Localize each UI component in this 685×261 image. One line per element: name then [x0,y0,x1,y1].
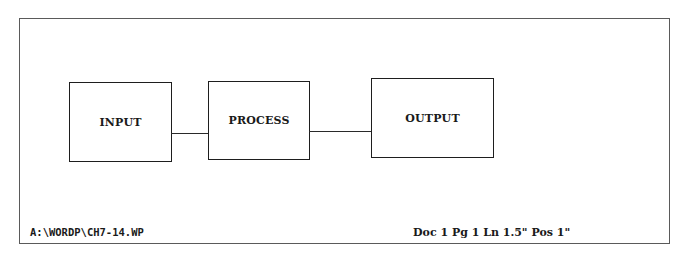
output-box: OUTPUT [371,78,494,158]
output-box-label: OUTPUT [405,112,460,125]
process-box-label: PROCESS [228,114,289,127]
status-cursor-position: Doc 1 Pg 1 Ln 1.5" Pos 1" [413,226,570,239]
connector-process-output [309,131,372,132]
process-box: PROCESS [208,81,310,160]
status-file-path: A:\WORDP\CH7-14.WP [30,226,144,238]
input-box: INPUT [69,82,172,162]
input-box-label: INPUT [99,116,141,129]
connector-input-process [171,133,209,134]
